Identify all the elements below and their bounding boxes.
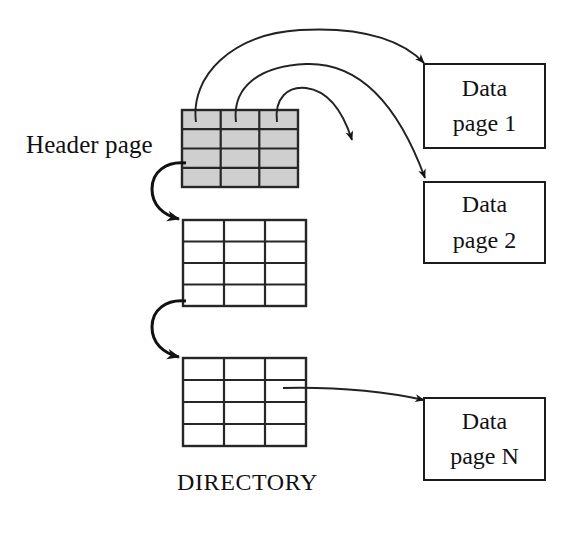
data-page-n-line1: Data (462, 409, 507, 434)
connector-directory-page-2-to-directory-page-3 (152, 301, 186, 357)
data-page-2-line1: Data (462, 192, 507, 217)
directory-page-2-grid (183, 220, 306, 306)
data-page-1-line2: page 1 (453, 111, 516, 136)
directory-page-3-grid (183, 358, 306, 446)
data-page-n-box: Data page N (423, 397, 546, 481)
data-page-1-box: Data page 1 (423, 63, 546, 149)
data-page-2-box: Data page 2 (423, 181, 546, 264)
data-page-n-line2: page N (450, 444, 519, 469)
header-page-label: Header page (26, 131, 153, 160)
header-page-grid (182, 110, 298, 187)
directory-label: DIRECTORY (177, 469, 318, 497)
data-page-1-line1: Data (462, 76, 507, 101)
data-page-2-line2: page 2 (453, 228, 516, 253)
directory-diagram: Header page DIRECTORY Data page 1 Data p… (0, 0, 579, 533)
